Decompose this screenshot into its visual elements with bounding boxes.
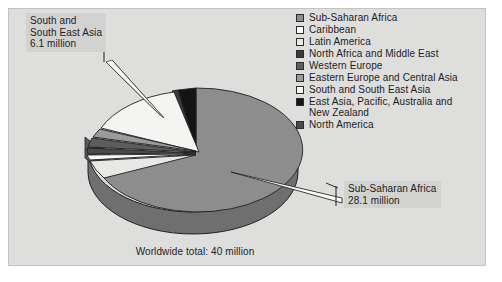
- legend-item-western-europe: Western Europe: [296, 60, 486, 71]
- worldwide-total-caption: Worldwide total: 40 million: [0, 246, 390, 257]
- legend-swatch-icon: [296, 26, 304, 34]
- legend-item-label: North America: [309, 119, 374, 130]
- legend-item-label: South and South East Asia: [309, 84, 430, 95]
- legend-swatch-icon: [296, 38, 304, 46]
- pie-top-face: [87, 88, 303, 212]
- legend-item-caribbean: Caribbean: [296, 24, 486, 35]
- legend-item-south-and-south-east-asia: South and South East Asia: [296, 84, 486, 95]
- legend-swatch-icon: [296, 62, 304, 70]
- legend-item-label: East Asia, Pacific, Australia and New Ze…: [309, 96, 452, 118]
- legend-item-label: Sub-Saharan Africa: [309, 12, 398, 23]
- legend-swatch-icon: [296, 121, 304, 129]
- legend-item-eastern-europe-and-central-asia: Eastern Europe and Central Asia: [296, 72, 486, 83]
- chart-legend: Sub-Saharan Africa Caribbean Latin Ameri…: [296, 12, 486, 131]
- legend-item-label: Western Europe: [309, 60, 382, 71]
- legend-item-label: Latin America: [309, 36, 371, 47]
- legend-swatch-icon: [296, 98, 304, 106]
- legend-item-label: North Africa and Middle East: [309, 48, 439, 59]
- legend-swatch-icon: [296, 74, 304, 82]
- legend-item-east-asia-pacific-australia-and-new-zealand: East Asia, Pacific, Australia and New Ze…: [296, 96, 486, 118]
- legend-item-north-africa-and-middle-east: North Africa and Middle East: [296, 48, 486, 59]
- legend-item-latin-america: Latin America: [296, 36, 486, 47]
- callout-south-and-south-east-asia: South and South East Asia 6.1 million: [26, 13, 106, 52]
- legend-item-sub-saharan-africa: Sub-Saharan Africa: [296, 12, 486, 23]
- pie-chart-figure: South and South East Asia 6.1 million Su…: [0, 0, 502, 282]
- callout-sub-saharan-africa: Sub-Saharan Africa 28.1 million: [344, 181, 441, 208]
- legend-item-label: Eastern Europe and Central Asia: [309, 72, 458, 83]
- legend-swatch-icon: [296, 14, 304, 22]
- legend-swatch-icon: [296, 50, 304, 58]
- legend-item-north-america: North America: [296, 119, 486, 130]
- legend-item-label: Caribbean: [309, 24, 356, 35]
- legend-swatch-icon: [296, 86, 304, 94]
